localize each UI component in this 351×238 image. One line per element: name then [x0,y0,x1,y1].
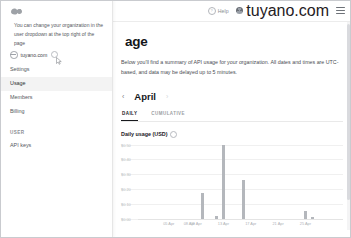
avatar [236,7,244,15]
chart-x-tick-label: 13 Apr [218,221,229,226]
chart-bar-slot[interactable] [281,145,288,219]
chart-y-tick-label: $0.00 [121,216,131,221]
chart-bar-slot[interactable] [193,145,200,219]
mouse-cursor-icon [56,57,62,65]
info-circle-icon[interactable] [170,131,177,138]
organization-icon [10,51,18,59]
chart-bar-slot[interactable] [247,145,254,219]
sidebar-org-name: tuyano.com [21,52,48,58]
chart-bar[interactable] [201,193,204,218]
sidebar: You can change your organization in the … [0,0,113,238]
chart-header: Daily usage (USD) [121,131,346,138]
chevron-right-icon[interactable]: › [165,93,169,100]
chart-bar[interactable] [242,180,245,218]
chart-bar-slot[interactable] [336,145,343,219]
main-content: age Below you'll find a summary of API u… [113,22,346,238]
sidebar-item-members[interactable]: Members [0,91,112,105]
top-bar-right: ? Help tuyano.com [208,2,345,20]
chart-y-tick-label: $0.50 [121,142,131,147]
page-title: age [125,34,346,49]
usage-tabs: DAILY CUMULATIVE [121,111,343,122]
chart-title: Daily usage (USD) [121,131,167,137]
chart-bar-slot[interactable] [179,145,186,219]
sidebar-item-api-keys[interactable]: API keys [0,138,112,152]
chart-x-tick-label: 09 Apr [190,221,201,226]
chart-bar-slot[interactable] [227,145,234,219]
usage-page: ? Help tuyano.com age Below you'll find … [0,0,351,238]
chart-baseline [138,219,343,220]
account-org-name: tuyano.com [246,2,329,20]
question-circle-icon: ? [208,7,216,15]
chart-bar-slot[interactable] [295,145,302,219]
chart-bar-slot[interactable] [309,145,316,219]
chart-bar-slot[interactable] [152,145,159,219]
chart-y-tick-label: $0.40 [121,157,131,162]
sidebar-item-billing[interactable]: Billing [0,105,112,119]
chart-bar-slot[interactable] [213,145,220,219]
chart-bar-slot[interactable] [165,145,172,219]
chart-bar[interactable] [215,216,218,219]
chevron-left-icon[interactable]: ‹ [121,93,125,100]
chart-bars [138,145,343,219]
page-description: Below you'll find a summary of API usage… [121,58,340,78]
account-menu-button[interactable]: tuyano.com [236,2,329,20]
chart-bar-slot[interactable] [322,145,329,219]
chart-bar[interactable] [304,211,307,218]
chart-bar-slot[interactable] [329,145,336,219]
chart-bar-slot[interactable] [261,145,268,219]
chart-bar-slot[interactable] [240,145,247,219]
chart-bar-slot[interactable] [206,145,213,219]
sidebar-section-user: USER [0,119,112,138]
chart-plot-area [138,145,343,219]
chart-bar[interactable] [222,145,225,219]
chart-bar-slot[interactable] [158,145,165,219]
chart-x-tick-label: 05 Apr [163,221,174,226]
hamburger-menu-icon[interactable] [336,7,345,14]
month-navigator: ‹ April › [121,91,346,102]
month-label: April [134,91,156,102]
chart-bar-slot[interactable] [288,145,295,219]
sidebar-item-usage[interactable]: Usage [0,77,112,91]
chart-bar-slot[interactable] [186,145,193,219]
chart-y-tick-label: $0.30 [121,172,131,177]
chart-bar-slot[interactable] [268,145,275,219]
chart-bar-slot[interactable] [275,145,282,219]
sidebar-hint: You can change your organization in the … [14,21,106,47]
chart-bar-slot[interactable] [316,145,323,219]
chart-x-tick-label: 17 Apr [245,221,256,226]
daily-usage-chart: $0.50$0.40$0.30$0.20$0.10$0.00 05 Apr08 … [121,145,343,219]
help-label: Help [218,8,229,14]
chart-bar-slot[interactable] [199,145,206,219]
help-button[interactable]: ? Help [208,7,229,15]
tab-daily[interactable]: DAILY [121,111,138,121]
chart-bar-slot[interactable] [220,145,227,219]
scrollbar-thumb[interactable] [347,24,350,200]
chart-bar-slot[interactable] [234,145,241,219]
chart-bar-slot[interactable] [172,145,179,219]
brand-logo-icon [9,6,23,17]
chart-x-tick-label: 21 Apr [272,221,283,226]
chart-y-tick-label: $0.20 [121,186,131,191]
chart-bar-slot[interactable] [302,145,309,219]
chart-y-tick-label: $0.10 [121,201,131,206]
chart-bar[interactable] [311,217,314,218]
chart-x-tick-label: 25 Apr [300,221,311,226]
chart-bar-slot[interactable] [145,145,152,219]
chart-bar-slot[interactable] [254,145,261,219]
tab-cumulative[interactable]: CUMULATIVE [150,111,186,121]
chart-bar-slot[interactable] [138,145,145,219]
